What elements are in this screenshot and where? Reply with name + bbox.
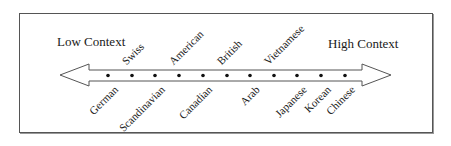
continuum-dot bbox=[177, 74, 181, 78]
continuum-dot bbox=[130, 74, 134, 78]
continuum-dot bbox=[225, 74, 229, 78]
continuum-dot bbox=[319, 74, 323, 78]
continuum-dot bbox=[343, 74, 347, 78]
continuum-dot bbox=[201, 74, 205, 78]
continuum-dot bbox=[248, 74, 252, 78]
continuum-dot bbox=[272, 74, 276, 78]
continuum-dot bbox=[153, 74, 157, 78]
continuum-dot bbox=[106, 74, 110, 78]
continuum-dot bbox=[295, 74, 299, 78]
double-headed-arrow bbox=[0, 0, 451, 146]
